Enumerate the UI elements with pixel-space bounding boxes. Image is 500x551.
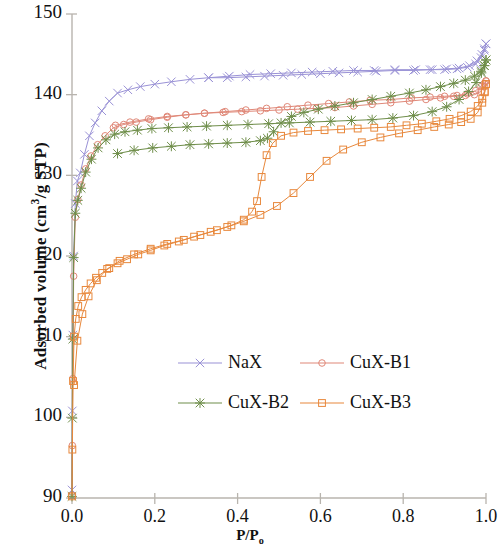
- legend-marker-square-icon: [300, 396, 344, 410]
- legend-label: NaX: [228, 352, 262, 373]
- series-line: [115, 81, 486, 125]
- series-cux-b2-desorption: [113, 55, 491, 158]
- adsorption-isotherm-plot: [0, 0, 500, 551]
- x-tick-label: 0.4: [208, 506, 268, 527]
- y-tick-label: 90: [4, 485, 62, 507]
- x-axis-title: P/Po: [0, 527, 500, 546]
- legend-item-cux-b2[interactable]: CuX-B2: [178, 392, 289, 413]
- legend-marker-x-icon: [178, 356, 222, 370]
- y-tick-label: 120: [4, 243, 62, 265]
- legend-marker-star-icon: [178, 396, 222, 410]
- y-tick-label: 150: [4, 1, 62, 23]
- legend-item-cux-b3[interactable]: CuX-B3: [300, 392, 411, 413]
- series-cux-b3-adsorption: [69, 81, 490, 500]
- series-cux-b1-adsorption: [69, 78, 490, 499]
- x-tick-label: 0.2: [125, 506, 185, 527]
- series-nax-desorption: [204, 40, 490, 82]
- x-tick-label: 0.0: [42, 506, 102, 527]
- y-tick-label: 100: [4, 404, 62, 426]
- legend-marker-o-icon: [300, 356, 344, 370]
- x-tick-label: 1.0: [456, 506, 500, 527]
- legend-label: CuX-B3: [350, 392, 411, 413]
- y-tick-label: 130: [4, 162, 62, 184]
- legend-item-nax[interactable]: NaX: [178, 352, 262, 373]
- y-tick-label: 140: [4, 82, 62, 104]
- legend-label: CuX-B1: [350, 352, 411, 373]
- series-line: [72, 44, 486, 490]
- legend-item-cux-b1[interactable]: CuX-B1: [300, 352, 411, 373]
- y-tick-label: 110: [4, 324, 62, 346]
- series-line: [72, 81, 486, 496]
- chart-root: Adsorbed volume (cm3/g STP) P/Po 9010011…: [0, 0, 500, 551]
- x-tick-label: 0.6: [290, 506, 350, 527]
- legend-label: CuX-B2: [228, 392, 289, 413]
- series-line: [209, 44, 486, 78]
- x-tick-label: 0.8: [373, 506, 433, 527]
